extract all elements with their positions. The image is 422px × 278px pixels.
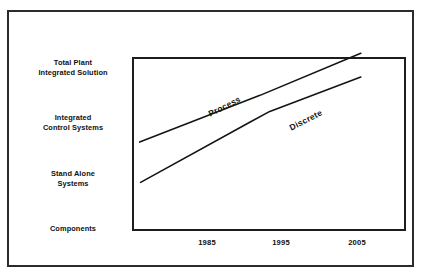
figure-container: Total Plant Integrated Solution Integrat… <box>0 0 422 278</box>
y-axis-label-total-plant-integrated-solution: Total Plant Integrated Solution <box>25 58 121 77</box>
y-axis-label-components: Components <box>25 224 121 234</box>
y-axis-label-stand-alone-systems: Stand Alone Systems <box>25 169 121 188</box>
x-axis-tick-label-2005: 2005 <box>337 238 377 247</box>
x-axis-tick-label-1985: 1985 <box>187 238 227 247</box>
plot-area <box>132 57 406 231</box>
y-axis-label-integrated-control-systems: Integrated Control Systems <box>25 113 121 132</box>
x-axis-tick-label-1995: 1995 <box>261 238 301 247</box>
figure-outer-frame: Total Plant Integrated Solution Integrat… <box>7 10 414 267</box>
